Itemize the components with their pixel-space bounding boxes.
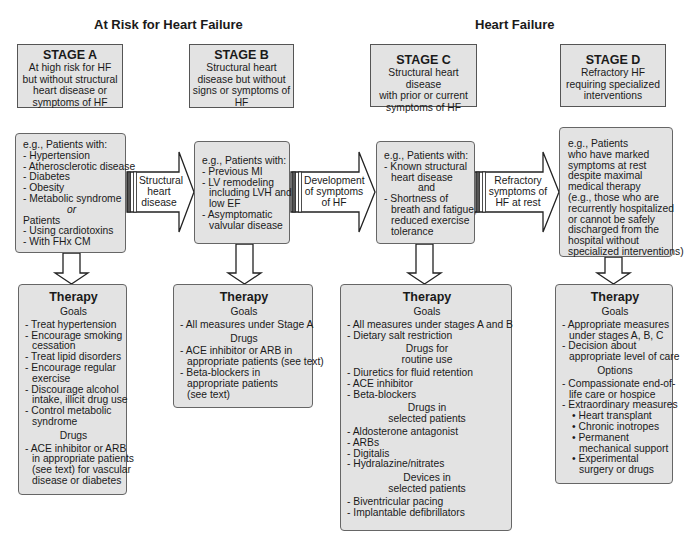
goal-item: syndrome <box>25 417 122 428</box>
therapy-title: Therapy <box>347 290 507 304</box>
down-arrow-a <box>55 253 88 284</box>
transition-label-symptoms: Development of symptoms of HF <box>304 175 364 209</box>
stage-desc-line: At high risk for HF <box>18 62 122 74</box>
transition-line: Development <box>304 175 364 186</box>
therapy-a-box: Therapy Goals - Treat hypertension - Enc… <box>18 284 127 495</box>
label-line: selected patients <box>347 484 507 495</box>
drug-item: appropriate patients <box>180 379 308 390</box>
device-item: - Biventricular pacing <box>347 497 507 508</box>
option-item: - Compassionate end-of- <box>562 379 668 390</box>
patients-c-box: e.g., Patients with: - Known structural … <box>376 141 475 244</box>
patient-item: - With FHx CM <box>23 237 120 248</box>
drug-item: (see text) <box>180 390 308 401</box>
stage-desc-line: Structural heart <box>190 62 293 74</box>
stage-desc-line: signs or symptoms of <box>190 85 293 97</box>
label-line: selected patients <box>347 414 507 425</box>
patients-a-box: e.g., Patients with: - Hypertension - At… <box>15 133 126 253</box>
stage-a-box: STAGE A At high risk for HF but without … <box>17 44 123 108</box>
goals-label: Goals <box>180 307 308 318</box>
therapy-b-box: Therapy Goals - All measures under Stage… <box>173 284 313 408</box>
therapy-title: Therapy <box>25 290 122 304</box>
stage-desc-line: symptoms of HF <box>371 102 476 114</box>
transition-line: HF at rest <box>488 197 548 208</box>
stage-c-title: STAGE C <box>371 54 476 67</box>
goals-label: Goals <box>347 307 507 318</box>
patient-item: recurrently hospitalized <box>568 204 667 215</box>
stage-desc-line: heart disease or <box>18 85 122 97</box>
transition-line: symptoms of <box>488 186 548 197</box>
devices-label: Devices in selected patients <box>347 473 507 495</box>
transition-line: of HF <box>304 197 364 208</box>
patients-b-box: e.g., Patients with: - Previous MI - LV … <box>194 141 290 244</box>
options-label: Options <box>562 366 668 377</box>
patients-d-box: e.g., Patients who have marked symptoms … <box>559 127 673 257</box>
patient-item: specialized interventions) <box>568 247 667 258</box>
goal-item: - Appropriate measures <box>562 320 668 331</box>
therapy-c-box: Therapy Goals - All measures under stage… <box>340 284 512 531</box>
goal-item: exercise <box>25 374 122 385</box>
stage-desc-line: HF <box>190 97 293 109</box>
device-item: - Implantable defibrillators <box>347 508 507 519</box>
stage-desc-line: interventions <box>561 90 665 102</box>
drug-item: disease or diabetes <box>25 476 122 487</box>
stage-desc-line: Structural heart disease <box>371 67 476 90</box>
patient-item: - Previous MI <box>202 167 284 178</box>
transition-line: heart <box>139 186 179 197</box>
down-arrow-b <box>228 244 261 284</box>
goal-item: - All measures under Stage A <box>180 320 308 331</box>
extraordinary-item: surgery or drugs <box>562 465 668 476</box>
therapy-title: Therapy <box>180 290 308 304</box>
stage-desc-line: symptoms of HF <box>18 97 122 109</box>
drug-item: - Beta-blockers <box>347 390 507 401</box>
patient-item: reduced exercise <box>384 216 469 227</box>
or-connector: or <box>23 205 120 216</box>
drug-item: - ARBs <box>347 438 507 449</box>
patient-item: - Hypertension <box>23 151 120 162</box>
stage-a-title: STAGE A <box>18 49 122 62</box>
routine-drugs-label: Drugs for routine use <box>347 344 507 366</box>
goal-item: appropriate level of care <box>562 352 668 363</box>
transition-line: disease <box>139 197 179 208</box>
goals-label: Goals <box>25 307 122 318</box>
therapy-title: Therapy <box>562 290 668 304</box>
transition-line: of symptoms <box>304 186 364 197</box>
stage-desc-line: but without structural <box>18 74 122 86</box>
drugs-label: Drugs <box>25 431 122 442</box>
label-line: routine use <box>347 355 507 366</box>
stage-b-title: STAGE B <box>190 49 293 62</box>
down-arrow-c <box>408 244 441 284</box>
transition-line: Structural <box>139 175 179 186</box>
drug-item: - ACE inhibitor <box>347 379 507 390</box>
stage-desc-line: Refractory HF <box>561 67 665 79</box>
stage-b-box: STAGE B Structural heart disease but wit… <box>189 44 294 108</box>
patient-item: tolerance <box>384 227 469 238</box>
stage-desc-line: disease but without <box>190 74 293 86</box>
therapy-d-box: Therapy Goals - Appropriate measures und… <box>555 284 673 484</box>
stage-desc-line: requiring specialized <box>561 79 665 91</box>
patient-item: - Known structural <box>384 162 469 173</box>
stage-desc-line: with prior or current <box>371 90 476 102</box>
goal-item: - All measures under stages A and B <box>347 320 507 331</box>
down-arrow-d <box>597 257 630 284</box>
extraordinary-item: • Permanent <box>562 433 668 444</box>
patient-item: valvular disease <box>202 221 284 232</box>
transition-label-refractory: Refractory symptoms of HF at rest <box>488 175 548 209</box>
goal-item: - Dietary salt restriction <box>347 331 507 342</box>
goal-item: - Treat hypertension <box>25 320 122 331</box>
stage-d-box: STAGE D Refractory HF requiring speciali… <box>560 44 666 107</box>
stage-c-box: STAGE C Structural heart disease with pr… <box>370 44 477 107</box>
stage-d-title: STAGE D <box>561 54 665 67</box>
selected-drugs-label: Drugs in selected patients <box>347 403 507 425</box>
patient-item: who have marked <box>568 150 667 161</box>
drugs-label: Drugs <box>180 334 308 345</box>
transition-line: Refractory <box>488 175 548 186</box>
drug-item: - Hydralazine/nitrates <box>347 459 507 470</box>
goals-label: Goals <box>562 307 668 318</box>
transition-label-structural: Structural heart disease <box>139 175 179 209</box>
